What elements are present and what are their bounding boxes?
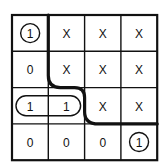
cell-value: X [135,100,143,114]
cell-value: 0 [27,136,34,150]
cell-value: 0 [99,136,106,150]
cell-value: X [99,100,107,114]
cell-value: X [62,27,70,41]
cell-value: X [135,63,143,77]
cell-value: X [135,27,143,41]
cell-value: 0 [27,63,34,77]
cell-value: X [62,63,70,77]
cell-value: X [99,63,107,77]
cell-value: 0 [63,136,70,150]
cell-value: 1 [27,100,34,114]
cell-value: X [99,27,107,41]
cell-value: 1 [136,136,143,150]
karnaugh-map: 1XXX0XXX11XX0001 [0,0,166,165]
cell-value: 1 [27,27,34,41]
cell-value: 1 [63,100,70,114]
